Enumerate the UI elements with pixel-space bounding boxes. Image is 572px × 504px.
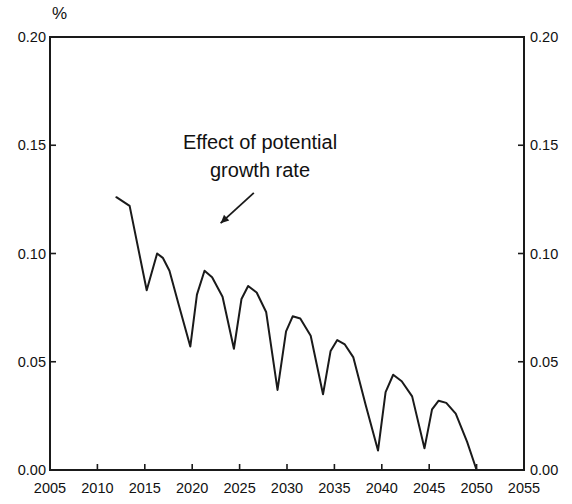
x-axis-label: 2035 <box>307 480 361 496</box>
annotation-text: Effect of potential growth rate <box>150 128 370 184</box>
x-axis-label: 2005 <box>23 480 77 496</box>
annotation-line-2: growth rate <box>150 156 370 184</box>
y-axis-label-left: 0.00 <box>2 462 46 478</box>
plot-frame-border <box>50 37 524 470</box>
x-axis-label: 2025 <box>213 480 267 496</box>
axes-frame <box>50 37 524 470</box>
x-axis-label: 2030 <box>260 480 314 496</box>
y-axis-label-left: 0.10 <box>2 246 46 262</box>
x-axis-label: 2055 <box>497 480 551 496</box>
x-axis-label: 2020 <box>165 480 219 496</box>
data-line <box>116 197 524 470</box>
y-axis-label-right: 0.20 <box>530 29 572 45</box>
y-axis-label-right: 0.00 <box>530 462 572 478</box>
x-axis-label: 2050 <box>450 480 504 496</box>
y-axis-label-right: 0.15 <box>530 137 572 153</box>
annotation-arrow <box>221 193 254 223</box>
annotation-line-1: Effect of potential <box>150 128 370 156</box>
x-axis-label: 2040 <box>355 480 409 496</box>
x-axis-label: 2015 <box>118 480 172 496</box>
y-axis-label-right: 0.10 <box>530 246 572 262</box>
y-axis-label-left: 0.20 <box>2 29 46 45</box>
chart-figure: % 0.000.050.100.150.20 0.000.050.100.150… <box>0 0 572 504</box>
x-axis-label: 2010 <box>70 480 124 496</box>
data-series-group <box>116 197 524 470</box>
y-axis-label-right: 0.05 <box>530 354 572 370</box>
chart-plot-area <box>0 0 572 504</box>
axis-ticks <box>50 145 524 470</box>
y-axis-label-left: 0.05 <box>2 354 46 370</box>
x-axis-label: 2045 <box>402 480 456 496</box>
y-axis-label-left: 0.15 <box>2 137 46 153</box>
